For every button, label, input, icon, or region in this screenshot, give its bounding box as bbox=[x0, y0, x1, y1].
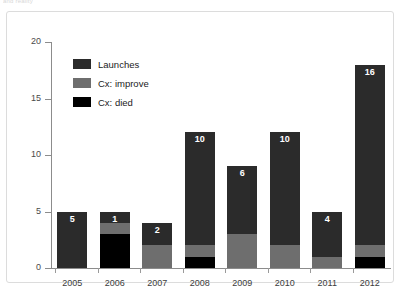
x-tick bbox=[98, 268, 99, 273]
bar-segment-cx-improve bbox=[100, 223, 130, 234]
bar-segment-cx-improve bbox=[312, 257, 342, 268]
bar-2007[interactable]: 2 bbox=[142, 223, 172, 268]
y-tick bbox=[45, 155, 51, 156]
bar-segment-cx-died bbox=[355, 257, 385, 268]
bar-segment-launches: 16 bbox=[355, 65, 385, 246]
x-tick bbox=[353, 268, 354, 273]
bar-segment-cx-improve bbox=[270, 245, 300, 268]
x-tick-label: 2009 bbox=[221, 278, 264, 288]
x-tick-label: 2005 bbox=[51, 278, 94, 288]
x-tick-label: 2010 bbox=[264, 278, 307, 288]
y-tick-label: 5 bbox=[17, 206, 41, 216]
x-tick-label: 2007 bbox=[136, 278, 179, 288]
y-tick-label: 15 bbox=[17, 93, 41, 103]
x-tick bbox=[140, 268, 141, 273]
y-tick-label: 20 bbox=[17, 36, 41, 46]
y-tick-label: 10 bbox=[17, 149, 41, 159]
bar-value-label: 2 bbox=[142, 225, 172, 235]
x-axis-line bbox=[51, 268, 391, 269]
x-tick bbox=[183, 268, 184, 273]
bar-value-label: 1 bbox=[100, 214, 130, 224]
y-axis-line bbox=[51, 42, 52, 268]
bar-2009[interactable]: 6 bbox=[227, 166, 257, 268]
x-tick bbox=[310, 268, 311, 273]
bar-value-label: 6 bbox=[227, 168, 257, 178]
bar-2005[interactable]: 5 bbox=[57, 212, 87, 269]
bar-segment-cx-died bbox=[185, 257, 215, 268]
bar-segment-launches: 2 bbox=[142, 223, 172, 246]
x-tick bbox=[225, 268, 226, 273]
x-tick-label: 2008 bbox=[179, 278, 222, 288]
bar-2006[interactable]: 1 bbox=[100, 212, 130, 269]
y-tick bbox=[45, 268, 51, 269]
top-caption: and reality bbox=[3, 0, 33, 6]
legend-item-launches[interactable]: Launches bbox=[73, 56, 183, 72]
x-tick-label: 2011 bbox=[306, 278, 349, 288]
x-tick-label: 2006 bbox=[94, 278, 137, 288]
bar-2008[interactable]: 10 bbox=[185, 132, 215, 268]
bar-value-label: 10 bbox=[270, 134, 300, 144]
bar-value-label: 10 bbox=[185, 134, 215, 144]
x-tick-label: 2012 bbox=[349, 278, 392, 288]
bar-segment-launches: 6 bbox=[227, 166, 257, 234]
bar-2010[interactable]: 10 bbox=[270, 132, 300, 268]
legend-label-cx-improve: Cx: improve bbox=[98, 78, 149, 89]
bar-segment-launches: 4 bbox=[312, 212, 342, 257]
legend-label-cx-died: Cx: died bbox=[98, 97, 133, 108]
bar-segment-cx-died bbox=[100, 234, 130, 268]
bar-2011[interactable]: 4 bbox=[312, 212, 342, 269]
legend-label-launches: Launches bbox=[98, 59, 139, 70]
bar-segment-cx-improve bbox=[227, 234, 257, 268]
bar-value-label: 5 bbox=[57, 214, 87, 224]
bar-segment-launches: 10 bbox=[270, 132, 300, 245]
chart-legend: Launches Cx: improve Cx: died bbox=[73, 56, 183, 113]
bar-2012[interactable]: 16 bbox=[355, 65, 385, 268]
bar-value-label: 4 bbox=[312, 214, 342, 224]
legend-swatch-cx-died bbox=[73, 97, 91, 107]
bar-segment-launches: 10 bbox=[185, 132, 215, 245]
bar-value-label: 16 bbox=[355, 67, 385, 77]
y-tick bbox=[45, 42, 51, 43]
y-tick bbox=[45, 99, 51, 100]
legend-item-cx-improve[interactable]: Cx: improve bbox=[73, 75, 183, 91]
chart-frame: 05101520 51210610416 2005200620072008200… bbox=[6, 11, 394, 283]
bar-segment-launches: 5 bbox=[57, 212, 87, 269]
bar-segment-cx-improve bbox=[142, 245, 172, 268]
y-tick bbox=[45, 212, 51, 213]
x-tick bbox=[268, 268, 269, 273]
bar-segment-launches: 1 bbox=[100, 212, 130, 223]
y-tick-label: 0 bbox=[17, 262, 41, 272]
legend-item-cx-died[interactable]: Cx: died bbox=[73, 94, 183, 110]
bar-segment-cx-improve bbox=[355, 245, 385, 256]
legend-swatch-cx-improve bbox=[73, 78, 91, 88]
bar-segment-cx-improve bbox=[185, 245, 215, 256]
chart-figure: and reality 05101520 51210610416 2005200… bbox=[0, 0, 402, 294]
legend-swatch-launches bbox=[73, 59, 91, 69]
x-tick bbox=[55, 268, 56, 273]
